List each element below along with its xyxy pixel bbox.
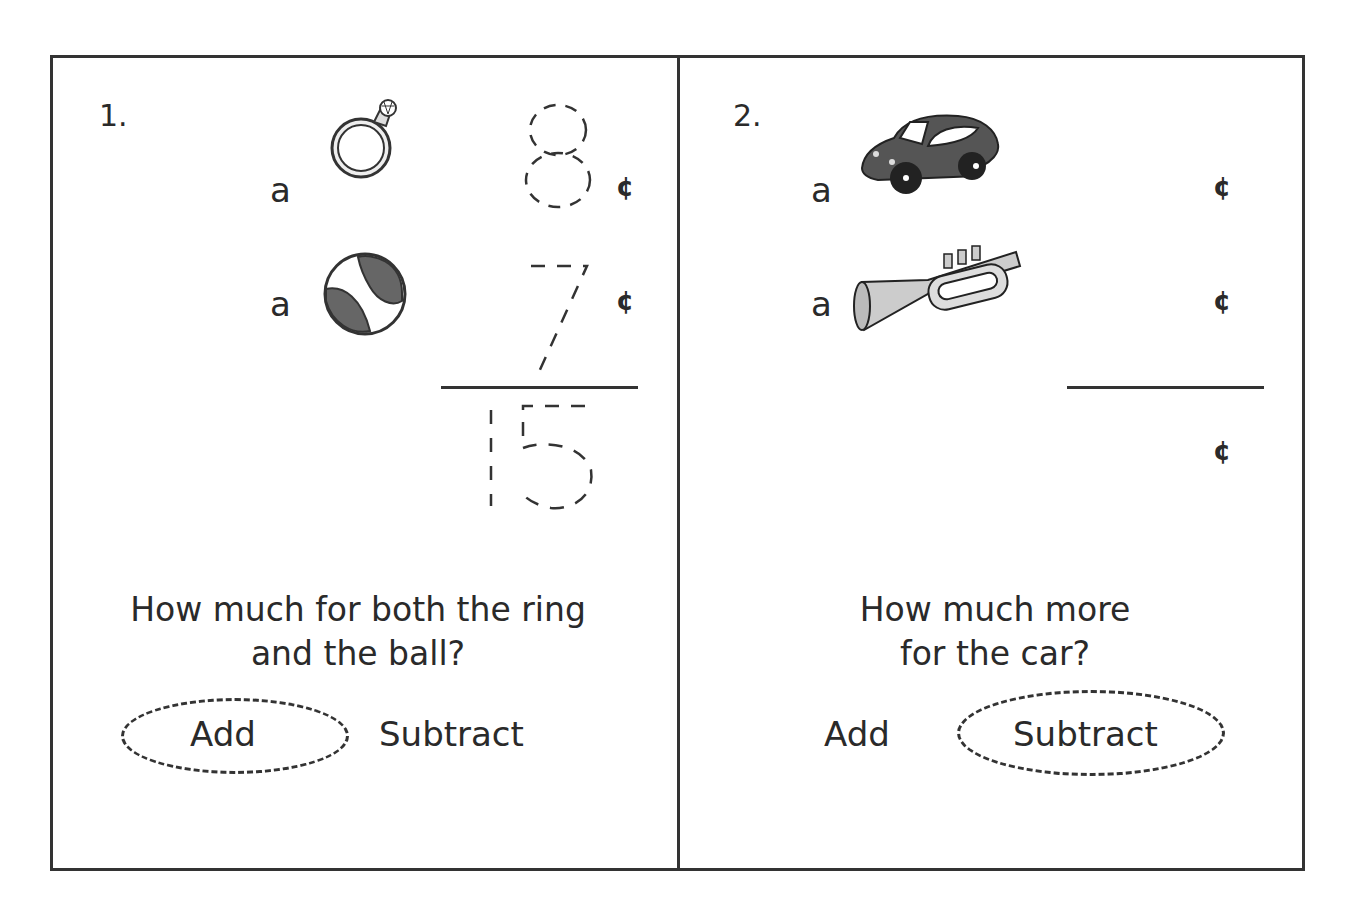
question-line-1: How much for both the ring xyxy=(93,588,623,632)
difference-line xyxy=(1067,386,1264,389)
item-article: a xyxy=(811,284,832,324)
worksheet: 1. a ¢ a ¢ How much fo xyxy=(50,55,1305,871)
question-line-1: How much more xyxy=(730,588,1260,632)
ball-icon xyxy=(322,249,412,339)
question-text: How much for both the ring and the ball? xyxy=(93,588,623,676)
cent-sign: ¢ xyxy=(1213,286,1231,316)
problem-2-panel: 2. a ¢ a ¢ ¢ How much more xyxy=(680,58,1302,868)
trumpet-icon xyxy=(848,244,1028,334)
cent-sign: ¢ xyxy=(616,286,634,316)
question-line-2: and the ball? xyxy=(93,632,623,676)
item-article: a xyxy=(811,170,832,210)
cent-sign: ¢ xyxy=(616,172,634,202)
sum-line xyxy=(441,386,638,389)
problem-number: 2. xyxy=(733,98,762,133)
choice-add[interactable]: Add xyxy=(190,714,256,754)
traced-answer-15 xyxy=(483,398,603,513)
question-line-2: for the car? xyxy=(730,632,1260,676)
choice-subtract[interactable]: Subtract xyxy=(379,714,524,754)
cent-sign: ¢ xyxy=(1213,172,1231,202)
traced-digit-8 xyxy=(521,100,596,212)
item-article: a xyxy=(270,170,291,210)
question-text: How much more for the car? xyxy=(730,588,1260,676)
choice-subtract[interactable]: Subtract xyxy=(1013,714,1158,754)
ring-icon xyxy=(328,96,408,186)
choice-add[interactable]: Add xyxy=(824,714,890,754)
cent-sign: ¢ xyxy=(1213,436,1231,466)
problem-number: 1. xyxy=(99,98,128,133)
item-article: a xyxy=(270,284,291,324)
problem-1-panel: 1. a ¢ a ¢ How much fo xyxy=(53,58,677,868)
car-icon xyxy=(858,110,1003,200)
traced-digit-7 xyxy=(521,258,596,378)
